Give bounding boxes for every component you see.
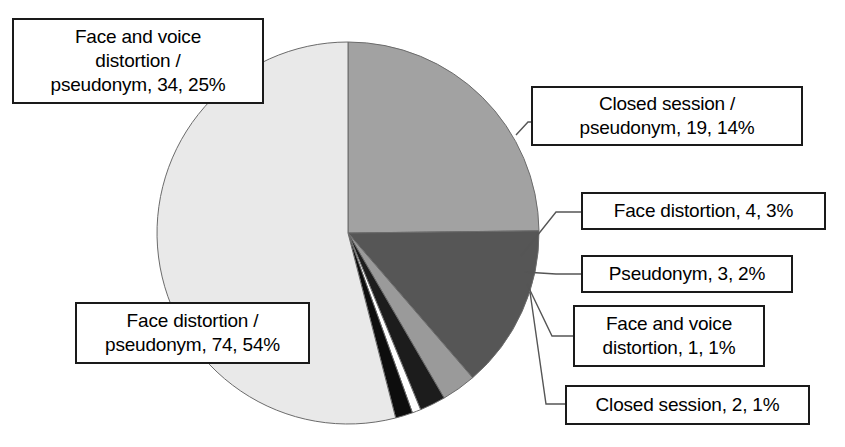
pie-label-closed-session-pseudonym: Closed session / pseudonym, 19, 14%: [531, 86, 803, 146]
pie-label-face-and-voice-distortion-pseudonym: Face and voice distortion / pseudonym, 3…: [12, 18, 264, 104]
pie-label-face-distortion-pseudonym: Face distortion / pseudonym, 74, 54%: [75, 302, 310, 364]
leader-line: [527, 284, 573, 336]
pie-slice: [348, 42, 539, 233]
leader-line: [530, 292, 565, 404]
pie-chart-figure: Face and voice distortion / pseudonym, 3…: [0, 0, 845, 447]
pie-label-pseudonym: Pseudonym, 3, 2%: [581, 255, 793, 293]
pie-label-face-and-voice-distortion: Face and voice distortion, 1, 1%: [573, 305, 765, 367]
pie-label-closed-session: Closed session, 2, 1%: [565, 385, 810, 425]
pie-label-face-distortion: Face distortion, 4, 3%: [581, 192, 826, 230]
